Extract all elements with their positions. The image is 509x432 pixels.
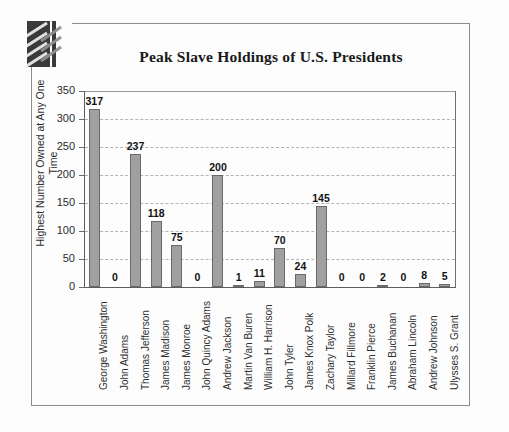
bar-value-label: 0 bbox=[95, 271, 135, 283]
y-axis-tick-label: 350 bbox=[29, 84, 75, 96]
bar-value-label: 237 bbox=[116, 140, 156, 152]
x-axis-category-label: William H. Harrison bbox=[263, 304, 274, 390]
bar bbox=[254, 281, 265, 287]
y-axis-tick-label: 150 bbox=[29, 196, 75, 208]
bar-value-label: 145 bbox=[301, 192, 341, 204]
bar bbox=[439, 284, 450, 287]
page-title: Peak Slave Holdings of U.S. Presidents bbox=[72, 48, 470, 66]
bar-value-label: 118 bbox=[136, 207, 176, 219]
diagonal-slashes-logo-icon bbox=[27, 21, 63, 67]
x-axis-category-label: Millard Fillmore bbox=[346, 322, 357, 390]
gridline bbox=[85, 119, 455, 120]
page-frame-top-rule bbox=[72, 23, 470, 24]
bar-value-label: 5 bbox=[425, 270, 465, 282]
y-axis-tick-label: 300 bbox=[29, 112, 75, 124]
y-axis-tick bbox=[79, 175, 85, 176]
x-axis-line bbox=[84, 287, 456, 288]
page-frame-bottom-rule bbox=[31, 405, 470, 406]
y-axis-tick-label: 0 bbox=[29, 280, 75, 292]
y-axis-tick bbox=[79, 259, 85, 260]
y-axis-tick-label: 200 bbox=[29, 168, 75, 180]
y-axis-tick-label: 250 bbox=[29, 140, 75, 152]
bar bbox=[130, 154, 141, 287]
x-axis-category-label: John Adams bbox=[119, 335, 130, 390]
x-axis-category-label: James Monroe bbox=[181, 324, 192, 390]
x-axis-category-label: George Washington bbox=[98, 301, 109, 390]
y-axis-tick bbox=[79, 119, 85, 120]
bar bbox=[419, 283, 430, 287]
y-axis-tick bbox=[79, 147, 85, 148]
plot-border-right bbox=[455, 91, 456, 288]
x-axis-category-label: Thomas Jefferson bbox=[140, 310, 151, 390]
bar bbox=[233, 285, 244, 287]
y-axis-tick bbox=[79, 231, 85, 232]
x-axis-category-label: James Knox Polk bbox=[304, 313, 315, 390]
y-axis-tick bbox=[79, 91, 85, 92]
bar-value-label: 200 bbox=[198, 161, 238, 173]
bar-value-label: 0 bbox=[177, 271, 217, 283]
y-axis-tick-label: 50 bbox=[29, 252, 75, 264]
y-axis-tick bbox=[79, 203, 85, 204]
y-axis-tick bbox=[79, 287, 85, 288]
x-axis-category-label: Andrew Johnson bbox=[428, 316, 439, 391]
bar bbox=[377, 285, 388, 287]
x-axis-category-label: Abraham Lincoln bbox=[407, 315, 418, 390]
bar-value-label: 24 bbox=[280, 260, 320, 272]
x-axis-category-label: Martin Van Buren bbox=[243, 313, 254, 390]
x-axis-category-label: Zachary Taylor bbox=[325, 325, 336, 390]
bar bbox=[89, 109, 100, 287]
x-axis-category-label: Andrew Jackson bbox=[222, 317, 233, 390]
x-axis-category-label: James Madison bbox=[160, 320, 171, 390]
bar-value-label: 11 bbox=[239, 267, 279, 279]
x-axis-category-label: John Tyler bbox=[284, 344, 295, 390]
chart-page: Peak Slave Holdings of U.S. Presidents H… bbox=[0, 0, 509, 432]
x-axis-category-label: Ulysses S. Grant bbox=[449, 315, 460, 390]
x-axis-category-label: John Quincy Adams bbox=[201, 301, 212, 390]
bar-value-label: 70 bbox=[260, 234, 300, 246]
x-axis-category-label: James Buchanan bbox=[387, 313, 398, 390]
x-axis-category-label: Franklin Pierce bbox=[366, 323, 377, 390]
plot-border-top bbox=[84, 91, 456, 92]
bar-value-label: 317 bbox=[74, 95, 114, 107]
bar-value-label: 75 bbox=[157, 231, 197, 243]
y-axis-title: Highest Number Owned at Any One Time bbox=[34, 78, 60, 248]
bar bbox=[295, 274, 306, 287]
y-axis-tick-label: 100 bbox=[29, 224, 75, 236]
page-frame-right-rule bbox=[469, 23, 470, 406]
